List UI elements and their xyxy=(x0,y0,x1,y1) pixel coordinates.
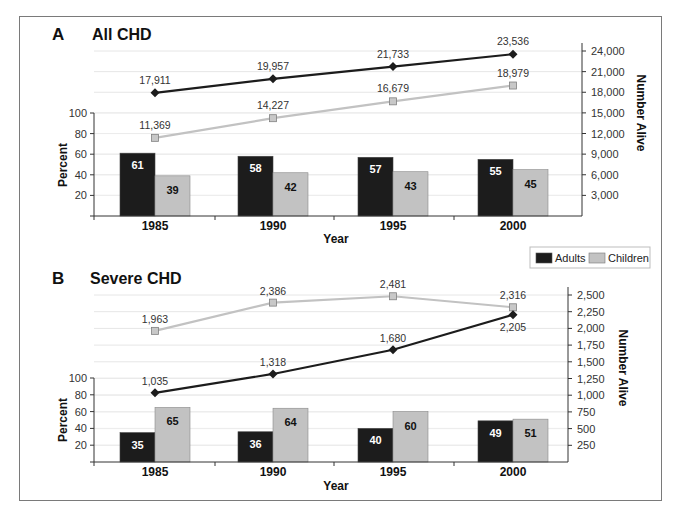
marker-diamond xyxy=(269,74,278,83)
marker-square xyxy=(270,115,277,122)
right-tick-label: 750 xyxy=(577,406,595,418)
right-tick-label: 2,500 xyxy=(577,289,605,301)
left-tick-label: 20 xyxy=(75,189,87,201)
bar-value-adults: 49 xyxy=(489,427,501,439)
point-label-adults: 19,957 xyxy=(257,60,289,72)
marker-square xyxy=(152,327,159,334)
right-tick-label: 1,750 xyxy=(577,339,605,351)
marker-diamond xyxy=(151,388,160,397)
panel-a-letter: A xyxy=(52,25,64,44)
right-tick-label: 12,000 xyxy=(591,128,625,140)
right-tick-label: 21,000 xyxy=(591,66,625,78)
marker-square xyxy=(152,134,159,141)
point-label-adults: 2,205 xyxy=(500,321,526,333)
left-tick-label: 40 xyxy=(75,422,87,434)
x-tick-label: 2000 xyxy=(500,219,527,233)
point-label-adults: 1,680 xyxy=(380,332,406,344)
marker-square xyxy=(390,98,397,105)
bar-value-children: 42 xyxy=(284,181,296,193)
bar-value-adults: 40 xyxy=(369,434,381,446)
bar-value-children: 43 xyxy=(404,180,416,192)
line-adults xyxy=(155,54,513,93)
marker-diamond xyxy=(151,88,160,97)
legend-label-adults: Adults xyxy=(555,252,586,264)
left-tick-label: 20 xyxy=(75,439,87,451)
point-label-adults: 1,035 xyxy=(142,375,168,387)
left-tick-label: 100 xyxy=(69,107,87,119)
panel-b-letter: B xyxy=(52,269,64,288)
bar-value-adults: 36 xyxy=(249,438,261,450)
x-tick-label: 1995 xyxy=(380,465,407,479)
bar-children xyxy=(513,170,548,216)
right-tick-label: 9,000 xyxy=(591,148,619,160)
left-tick-label: 60 xyxy=(75,406,87,418)
point-label-adults: 23,536 xyxy=(497,35,529,47)
right-tick-label: 15,000 xyxy=(591,107,625,119)
legend-swatch-children xyxy=(589,253,605,263)
panel-b-severe-chd: B Severe CHD 3565366440604951 1985199019… xyxy=(52,269,630,493)
bar-children xyxy=(513,419,548,462)
point-label-children: 16,679 xyxy=(377,82,409,94)
panel-b-left-axis-title: Percent xyxy=(56,398,70,442)
bar-value-children: 64 xyxy=(284,416,297,428)
point-label-children: 2,386 xyxy=(260,285,286,297)
right-tick-label: 6,000 xyxy=(591,169,619,181)
panel-a-bars: 6139584257435545 xyxy=(120,153,548,216)
marker-diamond xyxy=(269,369,278,378)
point-label-adults: 1,318 xyxy=(260,356,286,368)
point-label-children: 1,963 xyxy=(142,313,168,325)
right-tick-label: 1,250 xyxy=(577,373,605,385)
chd-figure: A All CHD 6139584257435545 1985199019952… xyxy=(0,0,697,520)
bar-children xyxy=(155,176,190,216)
right-tick-label: 2,000 xyxy=(577,322,605,334)
panel-a-x-axis-title: Year xyxy=(323,232,349,246)
marker-square xyxy=(390,293,397,300)
left-tick-label: 80 xyxy=(75,389,87,401)
legend: Adults Children xyxy=(530,247,650,268)
point-label-children: 18,979 xyxy=(497,67,529,79)
bar-value-children: 51 xyxy=(524,427,536,439)
right-tick-label: 3,000 xyxy=(591,189,619,201)
right-tick-label: 24,000 xyxy=(591,45,625,57)
bar-value-adults: 58 xyxy=(249,162,261,174)
right-tick-label: 1,000 xyxy=(577,389,605,401)
line-children xyxy=(155,296,513,331)
bar-value-children: 45 xyxy=(524,178,536,190)
point-label-adults: 17,911 xyxy=(139,74,170,86)
panel-a-left-axis-title: Percent xyxy=(56,143,70,187)
x-tick-label: 1990 xyxy=(260,219,287,233)
marker-square xyxy=(510,82,517,89)
panel-a-title: All CHD xyxy=(92,26,152,43)
marker-square xyxy=(510,304,517,311)
bar-value-adults: 57 xyxy=(369,163,381,175)
right-tick-label: 250 xyxy=(577,439,595,451)
bar-value-children: 65 xyxy=(166,415,178,427)
panel-a-right-axis-title: Number Alive xyxy=(634,75,648,152)
x-tick-label: 1985 xyxy=(142,219,169,233)
line-children xyxy=(155,86,513,138)
legend-label-children: Children xyxy=(608,252,649,264)
point-label-children: 11,369 xyxy=(139,119,170,131)
x-tick-label: 1990 xyxy=(260,465,287,479)
panel-b-bars: 3565366440604951 xyxy=(120,407,548,462)
point-label-children: 14,227 xyxy=(257,99,289,111)
marker-square xyxy=(270,299,277,306)
panel-b-x-axis-title: Year xyxy=(323,479,349,493)
panel-b-lines: 1,9632,3862,4812,3161,0351,3181,6802,205 xyxy=(142,278,526,397)
marker-diamond xyxy=(389,62,398,71)
right-tick-label: 1,500 xyxy=(577,356,605,368)
panel-a-all-chd: A All CHD 6139584257435545 1985199019952… xyxy=(52,25,648,246)
x-tick-label: 1985 xyxy=(142,465,169,479)
left-tick-label: 100 xyxy=(69,372,87,384)
panel-b-right-axis-title: Number Alive xyxy=(616,330,630,407)
bar-children xyxy=(273,173,308,216)
right-tick-label: 18,000 xyxy=(591,86,625,98)
line-adults xyxy=(155,315,513,393)
x-tick-label: 2000 xyxy=(500,465,527,479)
bar-value-children: 60 xyxy=(404,420,416,432)
bar-value-adults: 55 xyxy=(489,165,501,177)
panel-b-title: Severe CHD xyxy=(90,270,182,287)
bar-value-children: 39 xyxy=(166,184,178,196)
bar-children xyxy=(393,172,428,216)
left-tick-label: 80 xyxy=(75,128,87,140)
